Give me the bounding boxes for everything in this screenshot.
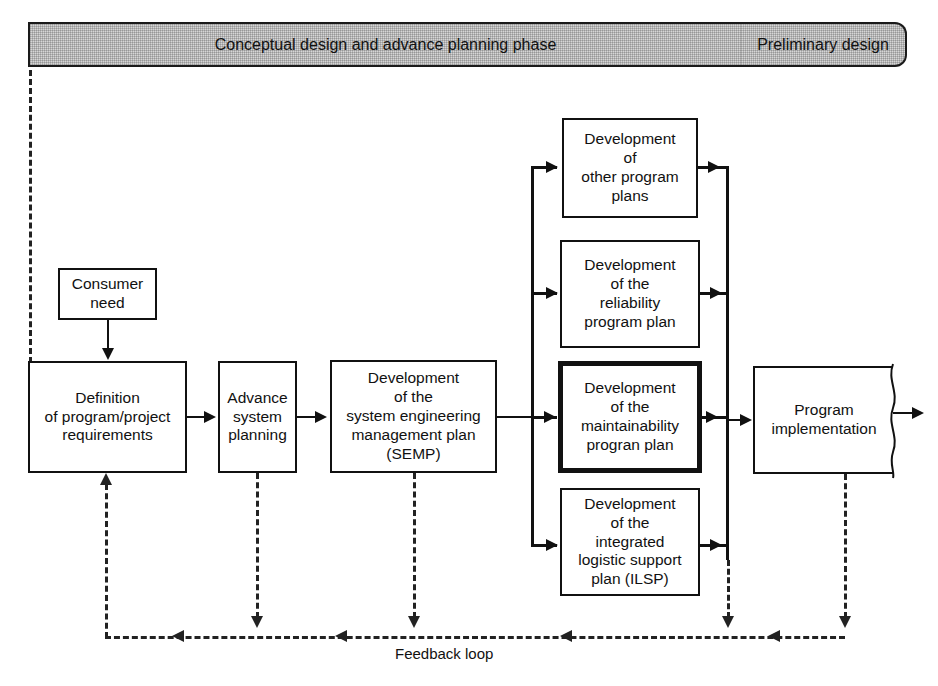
connector-semp-to-branch-bus — [497, 416, 534, 418]
arrowhead-advance-to-semp — [315, 411, 327, 423]
arrowhead-out-of-other-program-plans — [708, 161, 720, 173]
arrowhead-into-maintainability-plan — [544, 411, 556, 423]
merge-bus-vertical — [726, 166, 729, 560]
connector-consumer-need-to-definition — [107, 320, 109, 349]
box-ilsp: Development of the integrated logistic s… — [560, 488, 700, 596]
arrowhead-definition-to-advance — [204, 411, 216, 423]
feedback-loop-label: Feedback loop — [395, 645, 493, 662]
arrowhead-into-program-implementation — [740, 414, 752, 426]
arrowhead-out-of-maintainability-plan — [706, 411, 718, 423]
arrowhead-into-other-program-plans — [546, 161, 558, 173]
box-semp: Development of the system engineering ma… — [330, 360, 497, 473]
feedback-riser-to-definition — [105, 484, 108, 638]
arrowhead-feedback-trunk-left-4 — [768, 630, 780, 642]
box-other-program-plans: Development of other program plans — [562, 118, 698, 218]
box-consumer-need: Consumer need — [58, 268, 157, 320]
box-definition-of-program-project-requirements: Definition of program/project requiremen… — [28, 361, 187, 473]
wavy-right-edge — [884, 362, 902, 480]
feedback-loop-trunk — [105, 636, 845, 639]
arrowhead-into-reliability-plan — [546, 287, 558, 299]
arrowhead-feedback-into-definition — [100, 473, 112, 485]
arrowhead-feedback-from-advance-system-planning — [251, 616, 263, 628]
arrowhead-feedback-from-semp — [408, 616, 420, 628]
phase-banner-preliminary-design: Preliminary design — [741, 22, 907, 67]
arrowhead-out-of-ilsp — [710, 539, 722, 551]
arrowhead-program-implementation-output — [912, 407, 924, 419]
feedback-dropper-merge-bus — [727, 560, 730, 618]
dashed-phase-boundary-line — [29, 70, 32, 363]
arrowhead-feedback-trunk-left-1 — [172, 630, 184, 642]
arrowhead-feedback-trunk-left-3 — [560, 630, 572, 642]
arrowhead-into-ilsp — [546, 539, 558, 551]
phase-banner-conceptual-design: Conceptual design and advance planning p… — [28, 22, 742, 67]
box-program-implementation: Program implementation — [753, 366, 893, 474]
connector-advance-to-semp — [297, 416, 317, 418]
feedback-dropper-program-implementation — [844, 474, 847, 618]
box-advance-system-planning: Advance system planning — [218, 361, 297, 473]
arrowhead-feedback-trunk-left-2 — [335, 630, 347, 642]
feedback-dropper-semp — [413, 473, 416, 618]
arrowhead-feedback-from-merge-bus — [722, 616, 734, 628]
diagram-canvas: Conceptual design and advance planning p… — [0, 0, 938, 686]
box-reliability-program-plan: Development of the reliability program p… — [560, 240, 700, 348]
box-maintainability-program-plan: Development of the maintainability progr… — [558, 361, 702, 473]
arrowhead-feedback-from-program-implementation — [839, 616, 851, 628]
arrowhead-consumer-need-to-definition — [102, 348, 114, 360]
arrowhead-out-of-reliability-plan — [710, 287, 722, 299]
branch-bus-vertical — [531, 166, 534, 546]
feedback-dropper-advance-system-planning — [256, 473, 259, 618]
